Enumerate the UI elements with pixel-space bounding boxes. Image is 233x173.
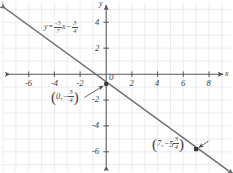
y-tick-label-neg4: -4 — [92, 120, 99, 130]
slope-fraction: -57 — [54, 20, 62, 35]
intercept-denominator: 4 — [72, 28, 78, 35]
axes — [10, 5, 223, 166]
x-axis-label: x — [225, 69, 229, 78]
x-tick-label-4: 4 — [155, 78, 159, 88]
x-tick-label-6: 6 — [181, 78, 185, 88]
x-tick-label-neg6: -6 — [25, 78, 32, 88]
x-tick-label-2: 2 — [130, 78, 134, 88]
coordinate-plane — [0, 0, 233, 173]
point-marker-y-intercept — [104, 82, 109, 87]
problem-number: 1. — [1, 0, 5, 6]
point-label-second: (7,−534) — [152, 136, 184, 151]
x-tick-label-neg2: -2 — [77, 78, 84, 88]
paren-close-1: ) — [74, 92, 79, 102]
graph-figure: 1. x y -6 -4 -2 2 4 6 8 4 2 -2 -4 -6 0 y… — [0, 0, 233, 173]
equation-label: y=-57x−34 — [44, 20, 78, 35]
point-marker-second — [194, 147, 198, 151]
y-tick-label-2: 2 — [95, 43, 99, 53]
intercept-fraction: 34 — [72, 20, 78, 35]
y-tick-label-4: 4 — [95, 17, 99, 27]
slope-denominator: 7 — [54, 28, 62, 35]
y-axis-label: y — [99, 0, 103, 8]
origin-label: 0 — [109, 72, 114, 82]
x-tick-label-8: 8 — [207, 78, 211, 88]
point-label-y-intercept: (0,−34) — [51, 89, 79, 104]
grid-lines — [2, 2, 231, 171]
y-tick-label-neg2: -2 — [92, 94, 99, 104]
y-tick-label-neg6: -6 — [92, 146, 99, 156]
paren-close-2: ) — [179, 139, 184, 149]
leader-arrow-second-point — [199, 141, 209, 148]
x-tick-label-neg4: -4 — [51, 78, 58, 88]
